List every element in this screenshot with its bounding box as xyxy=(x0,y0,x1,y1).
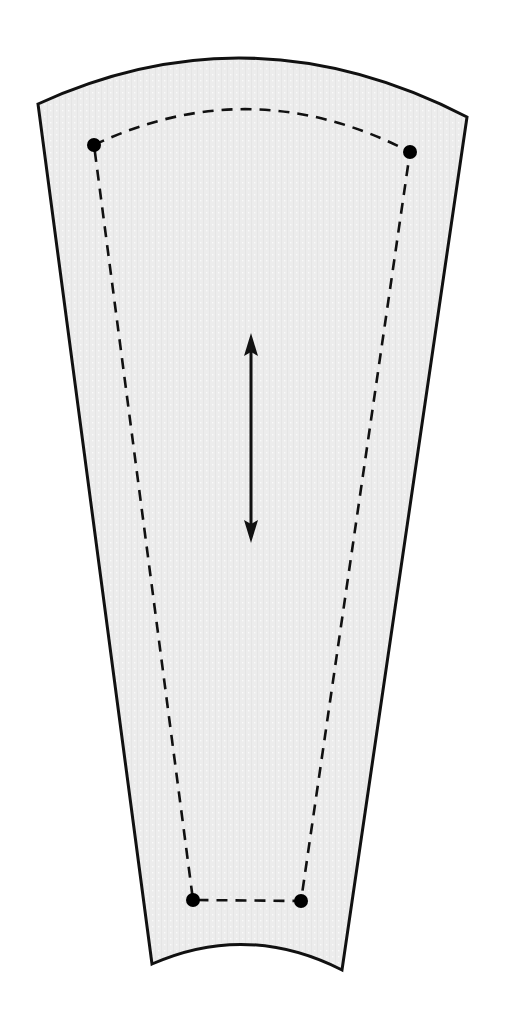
marker-dot-top-left xyxy=(87,138,101,152)
marker-dot-bottom-right xyxy=(294,894,308,908)
marker-dot-bottom-left xyxy=(186,893,200,907)
marker-dot-top-right xyxy=(403,145,417,159)
pattern-diagram xyxy=(0,0,530,1014)
